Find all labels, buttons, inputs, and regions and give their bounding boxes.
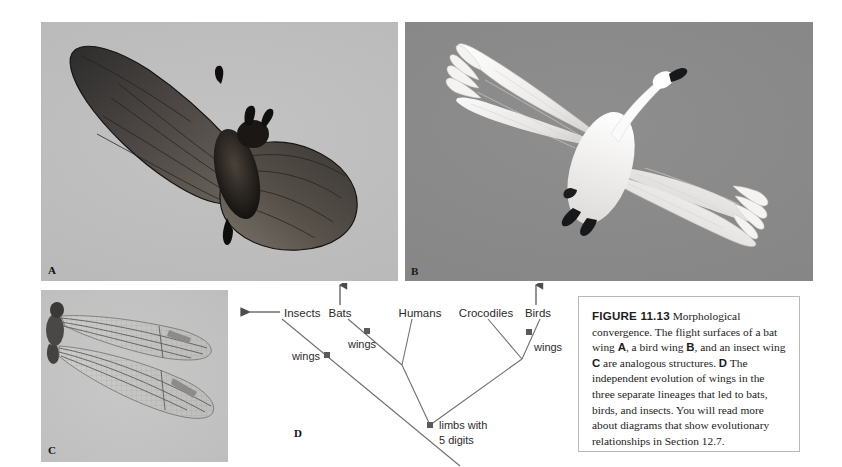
taxon-label-humans: Humans [399, 307, 442, 319]
insect-wing-illustration [41, 290, 228, 462]
taxon-label-bats: Bats [328, 307, 351, 319]
taxon-label-insects: Insects [284, 307, 321, 319]
caption-part-2: , a bird wing [626, 341, 686, 353]
caption-bold-c: C [592, 357, 600, 369]
panel-b-letter: B [411, 265, 418, 277]
caption-bold-d: D [719, 357, 727, 369]
panel-d-letter: D [294, 427, 302, 439]
cladogram-branches [282, 319, 540, 466]
node-marker-wings-bats [364, 328, 370, 334]
taxon-label-birds: Birds [525, 307, 551, 319]
node-marker-wings-birds [526, 329, 532, 335]
bat-illustration [41, 22, 398, 281]
panel-b-bird-photo: B [405, 22, 813, 281]
caption-part-5: The independent evolution of wings in th… [592, 357, 769, 447]
node-label-wings-birds: wings [533, 341, 563, 353]
swan-illustration [405, 22, 813, 281]
node-label-wings-bats: wings [347, 338, 377, 350]
node-marker-limbs-root [427, 422, 433, 428]
caption-part-4: are analogous structures. [600, 357, 719, 369]
caption-bold-b: B [686, 341, 694, 353]
panel-a-letter: A [48, 264, 56, 276]
panel-a-bat-photo: A [41, 22, 398, 281]
panel-c-letter: C [48, 444, 56, 456]
caption-bold-a: A [618, 341, 626, 353]
node-label-wings-insects: wings [291, 350, 321, 362]
node-label-limbs-line1: limbs with [439, 419, 487, 431]
node-label-limbs-line2: 5 digits [439, 434, 474, 446]
panel-d-cladogram: Insects Bats Humans Crocodiles Birds win… [236, 283, 572, 467]
caption-part-3: , and an insect wing [695, 341, 786, 353]
figure-caption-box: FIGURE 11.13 Morphological convergence. … [578, 296, 800, 452]
figure-number: FIGURE 11.13 [592, 309, 670, 322]
node-marker-wings-insects [324, 352, 330, 358]
cladogram-svg: Insects Bats Humans Crocodiles Birds win… [236, 283, 572, 467]
figure-caption-text: FIGURE 11.13 Morphological convergence. … [592, 308, 786, 449]
taxon-label-crocodiles: Crocodiles [459, 307, 514, 319]
panel-c-insect-photo: C [41, 290, 228, 462]
